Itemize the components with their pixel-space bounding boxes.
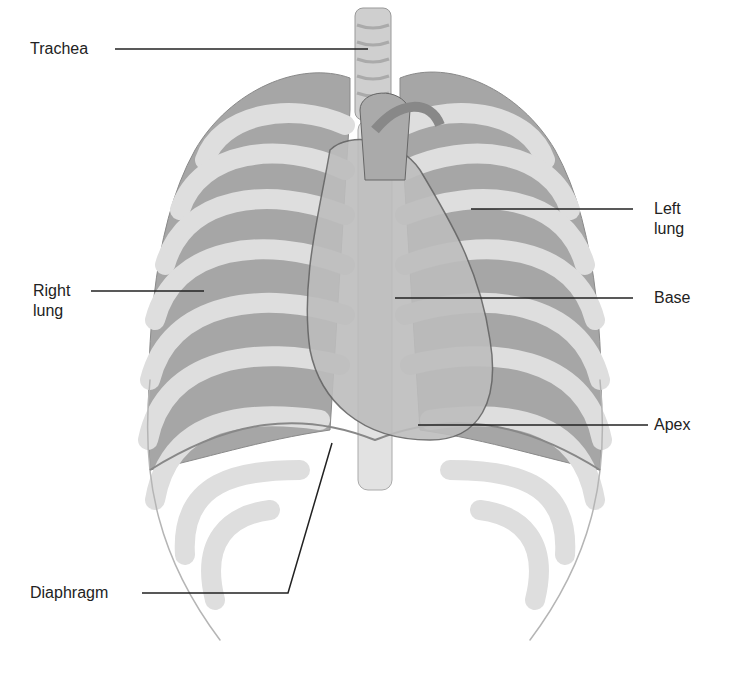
- label-trachea: Trachea: [30, 39, 88, 59]
- thorax-illustration: [0, 0, 729, 682]
- label-left-lung: Left lung: [654, 199, 684, 239]
- label-apex: Apex: [654, 415, 690, 435]
- label-left-lung-line2: lung: [654, 220, 684, 237]
- label-base: Base: [654, 288, 690, 308]
- label-right-lung-line1: Right: [33, 282, 70, 299]
- label-right-lung: Right lung: [33, 281, 70, 321]
- label-right-lung-line2: lung: [33, 302, 63, 319]
- label-left-lung-line1: Left: [654, 200, 681, 217]
- label-diaphragm: Diaphragm: [30, 583, 108, 603]
